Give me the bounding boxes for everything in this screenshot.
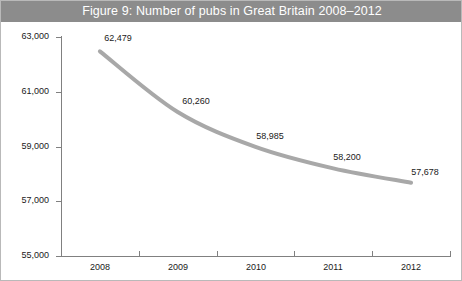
data-point-label: 60,260 (166, 96, 226, 106)
data-point-label: 62,479 (88, 33, 148, 43)
series-line-pubs (1, 1, 462, 281)
y-tick-mark (56, 37, 61, 38)
y-axis-line (61, 36, 62, 257)
x-tick-mark (61, 251, 62, 257)
x-tick-mark (217, 251, 218, 257)
data-point-label: 58,985 (240, 131, 300, 141)
x-tick-mark (372, 251, 373, 257)
y-tick-label: 61,000 (1, 86, 49, 96)
y-tick-mark (56, 92, 61, 93)
y-tick-mark (56, 147, 61, 148)
figure-title-banner: Figure 9: Number of pubs in Great Britai… (1, 1, 462, 22)
y-tick-label: 55,000 (1, 250, 49, 260)
data-point-label: 57,678 (395, 167, 455, 177)
x-tick-label: 2009 (148, 262, 208, 272)
x-tick-label: 2012 (381, 262, 441, 272)
figure-container: Figure 9: Number of pubs in Great Britai… (0, 0, 462, 281)
y-tick-label: 59,000 (1, 141, 49, 151)
x-tick-mark (450, 251, 451, 257)
x-tick-mark (139, 251, 140, 257)
figure-title: Figure 9: Number of pubs in Great Britai… (1, 1, 462, 22)
x-axis-line (61, 256, 450, 257)
data-point-label: 58,200 (317, 152, 377, 162)
y-tick-label: 63,000 (1, 31, 49, 41)
y-tick-label: 57,000 (1, 195, 49, 205)
x-tick-label: 2010 (226, 262, 286, 272)
x-tick-label: 2008 (70, 262, 130, 272)
x-tick-mark (294, 251, 295, 257)
x-tick-label: 2011 (303, 262, 363, 272)
y-tick-mark (56, 201, 61, 202)
